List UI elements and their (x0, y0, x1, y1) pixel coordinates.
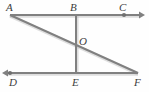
point-e-label: E (72, 77, 79, 88)
point-c-label: C (119, 2, 126, 13)
point-d-label: D (9, 77, 17, 88)
geometry-figure: A B C O D E F (0, 0, 149, 92)
arrowhead-left-icon (2, 70, 8, 77)
point-d-dot (8, 71, 12, 75)
arrowhead-right-icon (139, 12, 145, 19)
point-b-label: B (70, 2, 77, 13)
line-group (7, 15, 140, 73)
point-o-label: O (79, 36, 87, 47)
point-f-label: F (134, 77, 141, 88)
point-c-dot (122, 13, 126, 17)
point-a-label: A (6, 2, 13, 13)
segment-af-line (10, 15, 138, 73)
